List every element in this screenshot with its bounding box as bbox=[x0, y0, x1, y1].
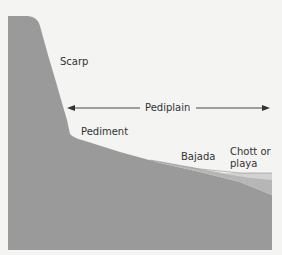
label-bajada: Bajada bbox=[181, 151, 215, 163]
label-chott-line1: Chott or bbox=[230, 146, 271, 158]
bedrock-scarp-pediment bbox=[8, 16, 272, 250]
label-pediment: Pediment bbox=[81, 126, 128, 138]
label-scarp: Scarp bbox=[60, 56, 88, 68]
label-pediplain: Pediplain bbox=[145, 102, 190, 114]
arrowhead-left-icon bbox=[67, 105, 75, 111]
landform-profile bbox=[0, 0, 282, 255]
arrowhead-right-icon bbox=[262, 105, 270, 111]
label-chott-line2: playa bbox=[230, 158, 257, 170]
